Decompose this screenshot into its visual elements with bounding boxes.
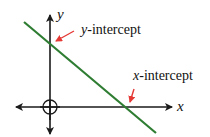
y-axis-label: y	[55, 6, 64, 22]
x-intercept-label: x-intercept	[132, 68, 193, 83]
x-axis-label: x	[176, 98, 184, 114]
x-intercept-arrow-icon	[130, 89, 134, 102]
y-intercept-label: y-intercept	[79, 22, 141, 37]
y-intercept-arrow-icon	[56, 31, 74, 41]
intercepts-diagram: y x y-intercept x-intercept	[0, 0, 210, 137]
